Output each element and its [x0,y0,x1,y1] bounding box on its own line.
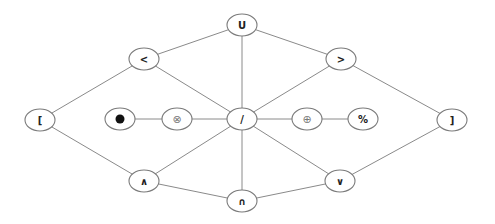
node-less: < [129,48,159,70]
nodes-layer: U<>[⊗/⊕%]∧∩∨ [25,14,467,212]
edge-slash-vee [242,119,340,181]
edge-union-less [144,25,242,59]
edge-union-greater [242,25,341,59]
edge-greater-slash [242,59,341,119]
node-label: / [240,114,244,125]
node-label: ] [450,115,455,126]
node-label: U [238,20,246,31]
node-label: [ [38,115,43,126]
node-label: ∧ [140,176,148,187]
node-wedge: ∧ [129,170,159,192]
node-lbracket: [ [25,109,55,131]
node-percent: % [348,108,378,130]
node-label: % [358,114,368,125]
filled-dot-icon [116,115,125,124]
node-oplus: ⊕ [292,108,322,130]
node-greater: > [326,48,356,70]
edge-slash-wedge [144,119,242,181]
node-label: ⊗ [172,113,181,126]
node-slash: / [227,108,257,130]
node-rbracket: ] [437,109,467,131]
edge-less-slash [144,59,242,119]
node-bullet [105,108,135,130]
node-label: < [140,54,148,65]
node-label: ∨ [336,176,344,187]
node-label: ⊕ [302,113,311,126]
node-intersection: ∩ [227,190,257,212]
node-label: ∩ [238,196,246,207]
node-otimes: ⊗ [162,108,192,130]
symbol-graph-diagram: U<>[⊗/⊕%]∧∩∨ [0,0,495,224]
node-vee: ∨ [325,170,355,192]
node-union: U [227,14,257,36]
node-label: > [337,54,345,65]
edge-lbracket-wedge [40,120,144,181]
